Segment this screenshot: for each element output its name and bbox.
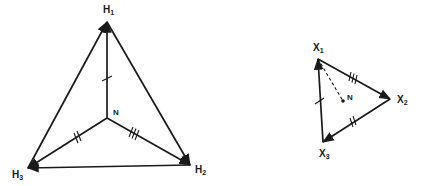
label-h2: H2 xyxy=(195,164,206,176)
edge-n-h3 xyxy=(28,118,107,168)
label-h1: H1 xyxy=(103,4,114,16)
label-n-right: N xyxy=(347,93,353,102)
edge-x2-x3 xyxy=(323,99,390,142)
label-x2: X2 xyxy=(397,94,408,106)
edge-h2-h3 xyxy=(28,165,190,168)
label-h3: H3 xyxy=(12,169,23,181)
tick-marks-x1-x2 xyxy=(349,72,357,84)
edge-h1-h2 xyxy=(107,22,190,165)
label-x1: X1 xyxy=(313,42,324,54)
diagram-svg: H1 H2 H3 N xyxy=(0,0,422,186)
point-n-right xyxy=(341,99,345,103)
label-n-left: N xyxy=(113,108,119,117)
tick-marks-n-h2 xyxy=(129,127,139,140)
edge-h3-h1 xyxy=(28,22,107,168)
edge-n-h2 xyxy=(107,118,190,165)
label-x3: X3 xyxy=(319,148,330,160)
tick-marks-x2-x3 xyxy=(350,116,356,127)
diagram-canvas: H1 H2 H3 N xyxy=(0,0,422,186)
tick-marks-x3-x1 xyxy=(315,98,324,104)
edge-x1-x2 xyxy=(318,59,390,99)
right-triangle: X1 X2 X3 N xyxy=(313,42,408,160)
left-triangle: H1 H2 H3 N xyxy=(12,4,206,181)
